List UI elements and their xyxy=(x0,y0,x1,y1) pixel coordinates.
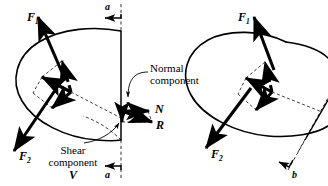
right-force-f2-label: F2 xyxy=(211,148,223,163)
normal-component-callout-line2: component xyxy=(150,75,199,87)
section-arrow-top xyxy=(105,14,121,18)
left-internal-component-down-arrow xyxy=(52,92,71,108)
shear-component-callout: Shear component xyxy=(38,145,108,168)
normal-component-symbol: N xyxy=(155,103,164,115)
right-force-f1-subscript: 1 xyxy=(246,17,250,26)
resultant-arrow xyxy=(122,111,152,122)
left-section-label-a-bottom: a xyxy=(105,170,110,180)
left-force-f1-subscript: 1 xyxy=(35,17,39,26)
right-internal-component-down-arrow xyxy=(256,92,272,110)
right-force-f1-arrow xyxy=(254,17,274,70)
shear-component-symbol: V xyxy=(69,169,77,181)
right-cut-face-solid-edge xyxy=(305,100,328,140)
right-force-f2-subscript: 2 xyxy=(219,154,223,163)
left-force-f1-label: F1 xyxy=(27,11,39,26)
right-force-f1-label: F1 xyxy=(238,11,250,26)
shear-component-callout-line1: Shear xyxy=(38,145,108,157)
right-body-outline-top xyxy=(286,42,328,58)
figure-canvas: a a F1 F2 Normal component N R Shear com… xyxy=(0,0,328,186)
section-arrow-b xyxy=(279,160,293,167)
left-centroid-to-cut-ray xyxy=(71,92,121,118)
left-section-label-a-top: a xyxy=(105,2,110,12)
left-force-f2-subscript: 2 xyxy=(27,156,31,165)
right-force-f2-symbol: F xyxy=(211,147,219,161)
shear-component-callout-line2: component xyxy=(38,157,108,169)
right-figure-group xyxy=(186,17,328,170)
left-force-f1-symbol: F xyxy=(27,10,35,24)
resultant-symbol: R xyxy=(156,119,164,131)
normal-component-callout: Normal component xyxy=(150,63,199,86)
right-centroid-to-cut-ray xyxy=(272,92,322,112)
normal-component-callout-line1: Normal xyxy=(150,63,199,75)
left-force-f2-label: F2 xyxy=(19,150,31,165)
normal-component-leader xyxy=(128,72,148,97)
right-force-f1-symbol: F xyxy=(238,10,246,24)
left-force-f2-symbol: F xyxy=(19,149,27,163)
right-section-label-b: b xyxy=(292,170,297,180)
